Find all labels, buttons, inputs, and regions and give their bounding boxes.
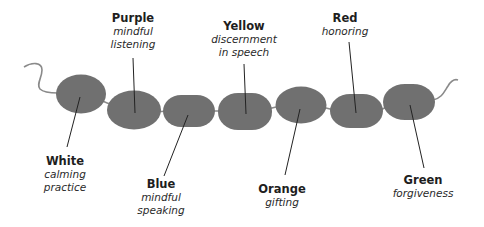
bead-blue [163, 95, 215, 127]
string-left-end [24, 64, 58, 93]
label-orange: Orange gifting [258, 182, 305, 209]
bead-meaning-line: mindful [137, 191, 184, 204]
bead-green [383, 84, 435, 120]
bead-meaning-line: discernment [211, 33, 277, 46]
bead-orange [276, 87, 327, 124]
bead-meaning-line: forgiveness [393, 187, 454, 200]
label-blue: Blue mindful speaking [137, 177, 184, 217]
label-yellow: Yellow discernment in speech [211, 19, 277, 59]
bead-meaning-line: gifting [258, 196, 305, 209]
bead-meaning-line: practice [44, 181, 86, 194]
bead-meaning-line: mindful [111, 25, 156, 38]
bead-red [330, 94, 383, 128]
label-green: Green forgiveness [393, 173, 454, 200]
label-purple: Purple mindful listening [111, 11, 156, 51]
bead-name: Green [393, 173, 454, 187]
label-red: Red honoring [322, 11, 369, 38]
bead-name: Blue [137, 177, 184, 191]
label-white: White calming practice [44, 154, 86, 194]
bead-name: White [44, 154, 86, 168]
bead-white [56, 75, 106, 114]
bead-meaning-line: honoring [322, 25, 369, 38]
bead-name: Yellow [211, 19, 277, 33]
bead-meaning-line: in speech [211, 46, 277, 59]
bead-meaning-line: listening [111, 38, 156, 51]
bead-meaning-line: speaking [137, 204, 184, 217]
bead-name: Purple [111, 11, 156, 25]
string-right-end [433, 80, 458, 100]
bead-meaning-line: calming [44, 168, 86, 181]
bead-name: Red [322, 11, 369, 25]
bead-name: Orange [258, 182, 305, 196]
